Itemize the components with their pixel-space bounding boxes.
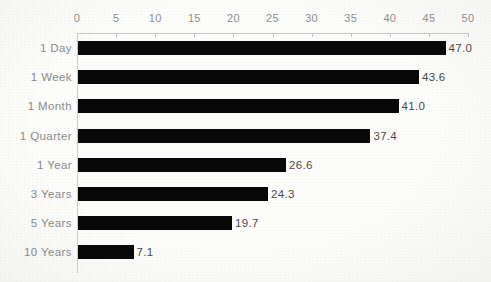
x-tick-label: 25	[266, 12, 279, 24]
x-tick-label: 5	[113, 12, 119, 24]
chart-canvas: 05101520253035404550 1 Day47.01 Week43.6…	[0, 0, 491, 282]
category-label: 1 Day	[40, 42, 72, 54]
x-tick-mark	[194, 33, 195, 37]
x-tick-mark	[468, 33, 469, 37]
x-tick-label: 30	[305, 12, 318, 24]
bar	[78, 129, 370, 143]
x-tick-label: 20	[227, 12, 240, 24]
x-tick-label: 45	[422, 12, 435, 24]
bar	[78, 41, 446, 55]
bar	[78, 187, 268, 201]
category-label: 1 Week	[31, 71, 72, 83]
x-tick-mark	[351, 33, 352, 37]
x-tick-mark	[233, 33, 234, 37]
x-tick-label: 15	[188, 12, 201, 24]
x-tick-mark	[390, 33, 391, 37]
bar-value-label: 37.4	[373, 130, 397, 142]
category-label: 5 Years	[31, 217, 72, 229]
x-tick-label: 0	[74, 12, 80, 24]
x-tick-mark	[77, 33, 78, 37]
bar-value-label: 19.7	[235, 217, 259, 229]
bar-value-label: 24.3	[271, 188, 295, 200]
bar-value-label: 47.0	[449, 42, 473, 54]
category-label: 1 Year	[37, 159, 72, 171]
x-tick-label: 10	[149, 12, 162, 24]
x-tick-mark	[273, 33, 274, 37]
x-tick-mark	[116, 33, 117, 37]
x-tick-mark	[312, 33, 313, 37]
category-label: 1 Month	[28, 100, 72, 112]
x-tick-label: 35	[344, 12, 357, 24]
bar-value-label: 7.1	[137, 246, 154, 258]
bar	[78, 245, 134, 259]
category-label: 1 Quarter	[20, 130, 72, 142]
bar	[78, 158, 286, 172]
y-axis-line	[77, 33, 78, 273]
x-tick-mark	[155, 33, 156, 37]
category-label: 3 Years	[31, 188, 72, 200]
x-tick-mark	[429, 33, 430, 37]
bar	[78, 99, 399, 113]
bar	[78, 216, 232, 230]
bar-value-label: 41.0	[402, 100, 426, 112]
bar-value-label: 26.6	[289, 159, 313, 171]
x-tick-label: 50	[462, 12, 475, 24]
bar	[78, 70, 419, 84]
category-label: 10 Years	[24, 246, 72, 258]
x-tick-label: 40	[383, 12, 396, 24]
bar-value-label: 43.6	[422, 71, 446, 83]
